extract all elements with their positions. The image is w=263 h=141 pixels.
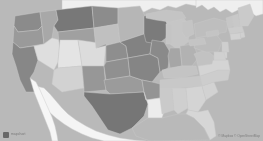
map-attribution[interactable]: © Mapbox © OpenStreetMap (218, 135, 260, 138)
region-ct (230, 33, 241, 40)
region-ms (160, 88, 174, 114)
region-nm (82, 66, 106, 92)
map-logo-badge[interactable]: mapchart (3, 132, 26, 138)
region-mt (54, 6, 94, 32)
region-md (214, 52, 226, 60)
region-nj (222, 42, 229, 52)
region-in (168, 48, 182, 68)
map-logo-label: mapchart (11, 133, 26, 136)
us-choropleth-map-widget[interactable]: mapchart © Mapbox © OpenStreetMap (0, 0, 263, 141)
map-canvas[interactable] (0, 0, 263, 141)
lake-michigan (166, 24, 172, 44)
region-ut (58, 40, 82, 68)
map-logo-icon (3, 132, 9, 138)
region-az (52, 66, 84, 92)
